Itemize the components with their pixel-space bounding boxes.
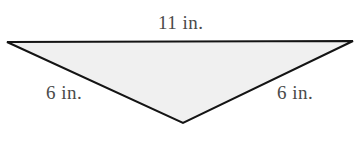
side-length-label-right: 6 in. bbox=[277, 83, 313, 102]
geometry-figure: 11 in. 6 in. 6 in. bbox=[0, 0, 359, 156]
side-length-label-left: 6 in. bbox=[46, 83, 82, 102]
side-length-label-top: 11 in. bbox=[158, 13, 204, 32]
